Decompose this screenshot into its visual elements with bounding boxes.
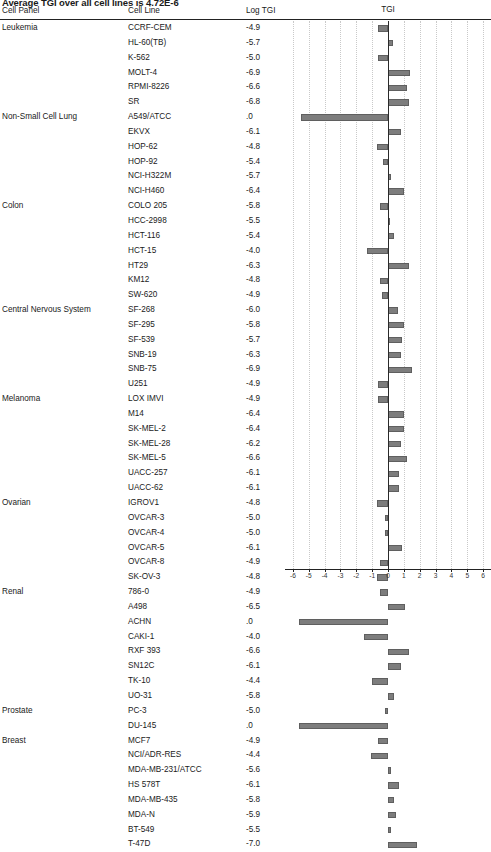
bar: [388, 827, 391, 833]
bar: [299, 723, 388, 729]
bar: [388, 797, 394, 803]
log-tgi-value: -6.1: [246, 659, 260, 674]
log-tgi-value: -4.4: [246, 674, 260, 689]
table-row: NCI-H322M-5.7: [0, 169, 285, 184]
cell-line-label: RPMI-8226: [128, 80, 169, 95]
table-row: SR-6.8: [0, 95, 285, 110]
bar: [388, 129, 401, 135]
cell-line-label: MDA-N: [128, 808, 155, 823]
cell-panel-label: Ovarian: [2, 496, 31, 511]
log-tgi-value: .0: [246, 615, 253, 630]
cell-line-label: K-562: [128, 51, 150, 66]
axis-tick-label: -2: [349, 572, 363, 579]
cell-line-label: CCRF-CEM: [128, 21, 172, 36]
cell-line-label: SK-MEL-5: [128, 451, 166, 466]
table-row: SNB-19-6.3: [0, 348, 285, 363]
log-tgi-value: -6.6: [246, 451, 260, 466]
log-tgi-value: -5.8: [246, 318, 260, 333]
table-row: Central Nervous SystemSF-268-6.0: [0, 303, 285, 318]
log-tgi-value: -5.4: [246, 229, 260, 244]
bar: [388, 485, 399, 491]
log-tgi-value: .0: [246, 719, 253, 734]
cell-line-label: 786-0: [128, 585, 149, 600]
log-tgi-value: -6.1: [246, 466, 260, 481]
cell-line-label: SF-539: [128, 333, 155, 348]
cell-line-label: SR: [128, 95, 139, 110]
chart-row: [285, 808, 491, 823]
cell-line-label: PC-3: [128, 704, 147, 719]
chart-row: [285, 719, 491, 734]
cell-line-label: OVCAR-5: [128, 541, 164, 556]
cell-line-label: SK-MEL-2: [128, 422, 166, 437]
cell-line-label: KM12: [128, 273, 149, 288]
cell-line-label: NCI/ADR-RES: [128, 748, 181, 763]
log-tgi-value: -5.9: [246, 808, 260, 823]
table-row: UACC-62-6.1: [0, 481, 285, 496]
log-tgi-value: -6.1: [246, 125, 260, 140]
cell-line-label: U251: [128, 377, 148, 392]
tgi-bar-chart: [285, 21, 491, 569]
bar: [301, 114, 388, 120]
bar: [388, 812, 396, 818]
chart-row: [285, 704, 491, 719]
cell-line-label: MDA-MB-435: [128, 793, 178, 808]
cell-line-label: MOLT-4: [128, 66, 157, 81]
cell-line-label: SK-OV-3: [128, 570, 160, 585]
chart-x-axis: -6-5-4-3-2-10123456: [285, 569, 491, 583]
chart-row: [285, 585, 491, 600]
chart-row: [285, 689, 491, 704]
cell-line-label: ACHN: [128, 615, 151, 630]
log-tgi-value: -5.6: [246, 763, 260, 778]
axis-tick-label: -1: [365, 572, 379, 579]
axis-tick-label: 2: [413, 572, 427, 579]
column-header-cell-panel: Cell Panel: [2, 6, 39, 15]
log-tgi-value: -4.9: [246, 392, 260, 407]
cell-line-label: NCI-H322M: [128, 169, 171, 184]
bar: [385, 708, 388, 714]
cell-line-label: HCT-116: [128, 229, 160, 244]
log-tgi-value: -6.2: [246, 437, 260, 452]
bar: [388, 99, 409, 105]
log-tgi-value: -5.5: [246, 823, 260, 838]
log-tgi-value: -4.0: [246, 630, 260, 645]
axis-tick-label: 3: [429, 572, 443, 579]
log-tgi-value: -5.8: [246, 689, 260, 704]
cell-line-label: MCF7: [128, 734, 150, 749]
bar: [388, 693, 394, 699]
cell-line-label: M14: [128, 407, 144, 422]
zero-line: [388, 21, 389, 569]
log-tgi-value: -5.8: [246, 793, 260, 808]
bar: [388, 188, 404, 194]
cell-line-label: LOX IMVI: [128, 392, 164, 407]
cell-line-label: UO-31: [128, 689, 152, 704]
chart-row: [285, 748, 491, 763]
table-row: M14-6.4: [0, 407, 285, 422]
axis-tick-label: -3: [333, 572, 347, 579]
bar: [378, 396, 388, 402]
cell-line-label: SF-295: [128, 318, 155, 333]
cell-line-label: T-47D: [128, 837, 150, 852]
cell-line-label: A498: [128, 600, 147, 615]
cell-line-label: IGROV1: [128, 496, 159, 511]
cell-panel-label: Prostate: [2, 704, 33, 719]
table-row: MDA-N-5.9: [0, 808, 285, 823]
bar: [377, 500, 388, 506]
bar: [378, 25, 388, 31]
chart-row: [285, 778, 491, 793]
table-row: SNB-75-6.9: [0, 362, 285, 377]
table-row: SW-620-4.9: [0, 288, 285, 303]
log-tgi-value: -6.5: [246, 600, 260, 615]
table-row: MDA-MB-435-5.8: [0, 793, 285, 808]
log-tgi-value: -5.7: [246, 333, 260, 348]
log-tgi-value: -4.9: [246, 555, 260, 570]
log-tgi-value: -4.8: [246, 496, 260, 511]
axis-tick-label: -6: [286, 572, 300, 579]
table-row: OVCAR-4-5.0: [0, 526, 285, 541]
cell-panel-label: Colon: [2, 199, 23, 214]
bar: [388, 411, 404, 417]
column-header-cell-line: Cell Line: [128, 6, 160, 15]
cell-line-label: SF-268: [128, 303, 155, 318]
bar: [378, 381, 388, 387]
log-tgi-value: -6.4: [246, 407, 260, 422]
log-tgi-value: -5.0: [246, 51, 260, 66]
